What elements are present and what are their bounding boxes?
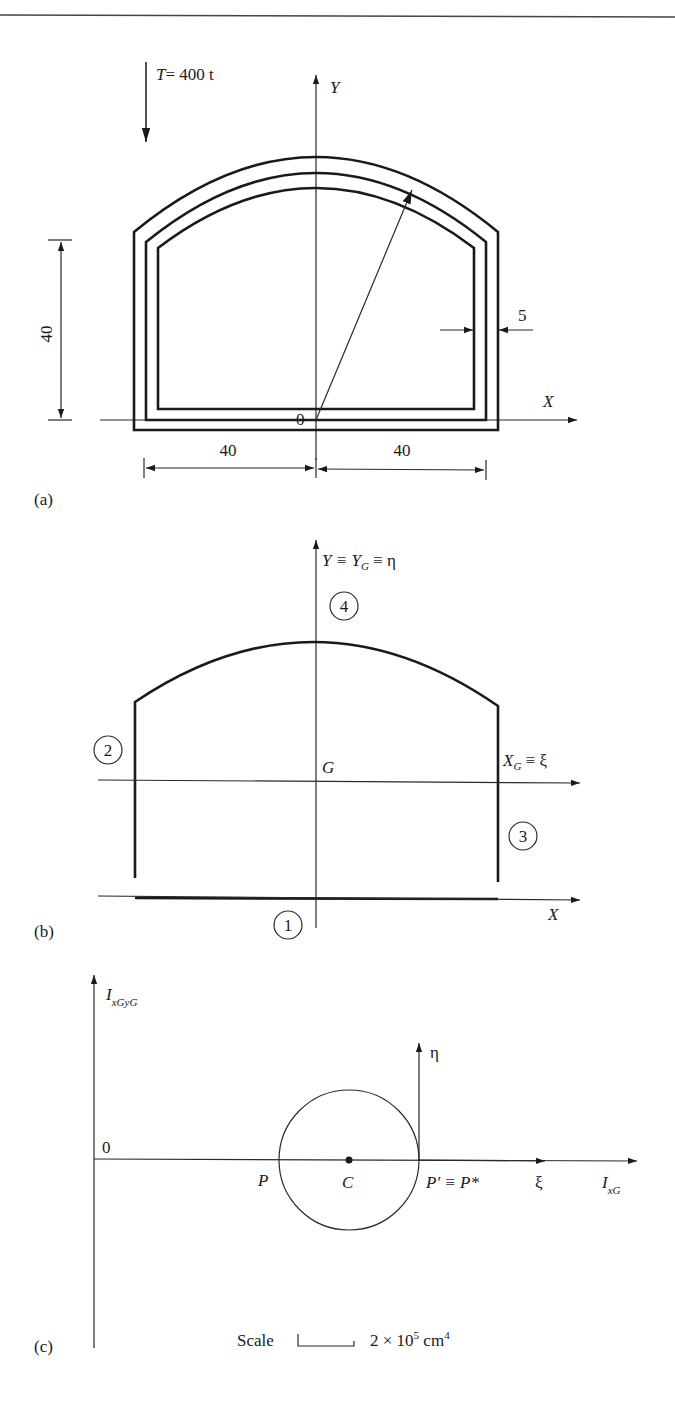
width-dimensions: 40 40 <box>144 441 486 480</box>
point-p-label: P <box>257 1171 268 1190</box>
height-dim-label: 40 <box>37 326 56 343</box>
figure-a: T= 400 t Y X 0 40 5 <box>34 62 577 509</box>
scale-bar-line <box>298 1334 354 1346</box>
y-axis-label-a: Y <box>330 78 341 97</box>
svg-text:2: 2 <box>104 741 113 760</box>
x-axis-label-a: X <box>542 392 554 411</box>
xg-axis-sub: G <box>513 760 521 772</box>
height-dimension: 40 <box>37 240 72 420</box>
scale-unit-exp: 4 <box>444 1329 450 1341</box>
svg-text:2 × 105 cm4: 2 × 105 cm4 <box>370 1329 450 1350</box>
svg-text:4: 4 <box>340 597 349 616</box>
center-point-c <box>346 1157 353 1164</box>
figure-b: Y ≡ YG ≡ η XG ≡ ξ G X 4 2 3 1 (b) <box>34 540 580 941</box>
y-axis-tail-b: ≡ η <box>369 551 396 570</box>
y-axis-label-b: Y ≡ Y <box>322 551 362 570</box>
eta-label: η <box>430 1043 439 1062</box>
horizontal-axis-sub: xG <box>607 1184 621 1196</box>
xg-axis-tail: ≡ ξ <box>521 751 547 770</box>
svg-text:Y ≡ YG ≡ η: Y ≡ YG ≡ η <box>322 551 396 572</box>
xg-axis-label: X <box>502 751 514 770</box>
radius-arrow <box>316 190 412 420</box>
figure-c: IxGyG 0 IxG η ξ P C P′ ≡ P* Scale 2 × 10… <box>34 975 637 1356</box>
point-p-prime-label: P′ ≡ P* <box>425 1173 479 1192</box>
point-c-label: C <box>342 1173 354 1192</box>
right-width-dim-label: 40 <box>394 441 411 460</box>
xi-label: ξ <box>535 1173 543 1192</box>
svg-text:XG ≡ ξ: XG ≡ ξ <box>502 751 547 772</box>
y-axis-sub-b: G <box>361 560 369 572</box>
panel-label-a: (a) <box>34 490 53 509</box>
origin-label-c: 0 <box>102 1138 111 1157</box>
left-width-dim-label: 40 <box>220 441 237 460</box>
segment-marker-1: 1 <box>274 911 302 939</box>
panel-label-b: (b) <box>34 922 54 941</box>
thickness-dim-label: 5 <box>518 306 527 325</box>
segment-marker-3: 3 <box>509 822 537 850</box>
x-axis-label-b: X <box>547 905 559 924</box>
svg-text:IxG: IxG <box>601 1173 621 1196</box>
vertical-axis-sub: xGyG <box>111 996 138 1008</box>
centroid-label: G <box>322 758 334 777</box>
scale-bar: Scale 2 × 105 cm4 <box>237 1329 450 1350</box>
segment-marker-4: 4 <box>330 592 358 620</box>
svg-text:T= 400 t: T= 400 t <box>156 65 214 84</box>
segment-marker-2: 2 <box>94 736 122 764</box>
scale-label: Scale <box>237 1331 274 1350</box>
figure-canvas: T= 400 t Y X 0 40 5 <box>0 0 675 1419</box>
top-rule <box>0 15 675 17</box>
load-value: = 400 t <box>165 65 214 84</box>
svg-text:3: 3 <box>519 827 528 846</box>
load-arrow: T= 400 t <box>146 62 214 142</box>
svg-text:1: 1 <box>284 916 293 935</box>
scale-unit: cm <box>419 1331 444 1350</box>
scale-value: 2 × 10 <box>370 1331 414 1350</box>
horizontal-axis-c <box>94 1159 637 1161</box>
panel-label-c: (c) <box>34 1337 53 1356</box>
svg-text:IxGyG: IxGyG <box>105 985 137 1008</box>
xg-axis <box>98 780 580 783</box>
figure-svg: T= 400 t Y X 0 40 5 <box>0 0 675 1419</box>
